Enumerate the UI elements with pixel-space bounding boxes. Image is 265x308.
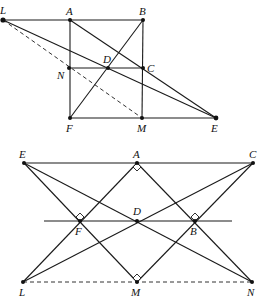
- point-D: [135, 219, 139, 223]
- label-L: L: [0, 4, 6, 16]
- point-D: [106, 66, 110, 70]
- bottom-figure: E A C F D B L M N: [18, 148, 257, 298]
- point-A: [68, 18, 72, 22]
- label-E: E: [210, 122, 218, 134]
- point-E: [214, 116, 219, 121]
- label-N: N: [246, 286, 255, 298]
- point-F: [68, 116, 72, 120]
- point-B: [141, 18, 145, 22]
- top-figure: L A B N D C F M E: [0, 4, 218, 134]
- label-C: C: [249, 148, 257, 160]
- point-N: [250, 280, 254, 284]
- dashed-segment-LM: [3, 20, 142, 118]
- label-C: C: [147, 62, 155, 74]
- label-M: M: [130, 286, 141, 298]
- label-A: A: [65, 5, 73, 17]
- point-A: [135, 161, 139, 165]
- point-N: [67, 66, 71, 70]
- label-B: B: [190, 225, 197, 237]
- label-A: A: [132, 148, 140, 160]
- label-B: B: [139, 5, 146, 17]
- label-N: N: [56, 69, 65, 81]
- label-D: D: [102, 53, 111, 65]
- point-L: [0, 17, 5, 22]
- label-M: M: [136, 122, 147, 134]
- geometry-diagram: L A B N D C F M E E A C: [0, 0, 265, 308]
- label-F: F: [65, 122, 73, 134]
- label-F: F: [74, 225, 82, 237]
- label-D: D: [132, 205, 141, 217]
- point-M: [140, 116, 144, 120]
- point-F: [78, 219, 82, 223]
- point-M: [135, 280, 139, 284]
- point-B: [193, 219, 197, 223]
- label-E: E: [18, 148, 26, 160]
- label-L: L: [18, 286, 25, 298]
- point-L: [21, 280, 25, 284]
- point-C: [141, 66, 145, 70]
- point-E: [22, 161, 26, 165]
- point-C: [251, 161, 255, 165]
